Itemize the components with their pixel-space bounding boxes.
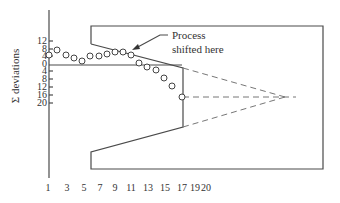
x-tick-label: 15 <box>160 182 170 193</box>
data-point <box>136 60 142 66</box>
data-point <box>46 52 52 58</box>
x-tick-label: 7 <box>98 182 103 193</box>
data-point <box>179 94 185 100</box>
x-tick-label: 19 <box>190 182 200 193</box>
data-point <box>79 58 85 64</box>
data-point <box>120 49 126 55</box>
data-point <box>54 47 60 53</box>
data-point <box>128 52 134 58</box>
data-point <box>87 53 93 59</box>
data-point <box>63 52 69 58</box>
x-tick-label: 9 <box>113 182 118 193</box>
x-tick-label: 20 <box>201 182 211 193</box>
data-point <box>96 53 102 59</box>
data-point <box>153 67 159 73</box>
y-ticks: 12 8 4 0 4 8 12 16 20 <box>37 35 53 108</box>
x-tick-label: 5 <box>82 182 87 193</box>
arrowhead-icon <box>132 44 140 50</box>
x-tick-label: 1 <box>46 182 51 193</box>
annotation-line-1: Process <box>172 29 206 41</box>
annotation-process-shifted: Process shifted here <box>132 29 224 55</box>
data-point <box>71 55 77 61</box>
x-tick-label: 13 <box>143 182 153 193</box>
x-ticks: 1 3 5 7 9 11 13 15 17 19 20 <box>46 182 212 193</box>
data-point <box>112 49 118 55</box>
v-mask-projection <box>183 68 296 127</box>
data-point <box>104 51 110 57</box>
data-point <box>169 83 175 89</box>
data-point <box>161 75 167 81</box>
y-tick-label: 20 <box>37 97 47 108</box>
data-point <box>144 64 150 70</box>
x-tick-label: 3 <box>65 182 70 193</box>
x-tick-label: 17 <box>177 182 187 193</box>
data-points <box>46 47 185 100</box>
y-axis-label: Σ deviations <box>9 49 21 103</box>
annotation-arrow <box>136 35 168 48</box>
x-tick-label: 11 <box>126 182 136 193</box>
annotation-line-2: shifted here <box>172 43 224 55</box>
cusum-v-mask-chart: Σ deviations 12 8 4 0 4 8 12 16 20 <box>0 0 340 203</box>
